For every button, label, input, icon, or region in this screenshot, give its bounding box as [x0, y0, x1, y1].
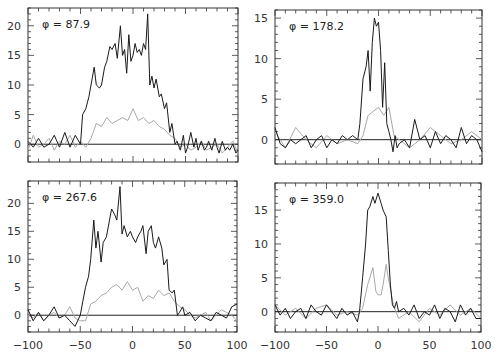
y-tick-label: 5	[261, 93, 268, 106]
chart-panel-bottom-left: 05101520−100−50050100φ = 267.6	[7, 181, 248, 352]
y-tick-label: 15	[254, 204, 268, 217]
series-light-line	[275, 107, 482, 148]
x-tick-label: 50	[178, 339, 192, 352]
series-dark-line	[275, 193, 481, 322]
series-dark-line	[28, 187, 237, 327]
x-tick-label: 50	[423, 339, 437, 352]
phi-annotation: φ = 87.9	[42, 18, 90, 31]
chart-figure: 05101520φ = 87.9051015φ = 178.205101520−…	[0, 0, 495, 359]
y-tick-label: 15	[7, 49, 21, 62]
y-tick-label: 0	[261, 306, 268, 319]
x-tick-label: −50	[69, 339, 92, 352]
y-tick-label: 5	[14, 109, 21, 122]
y-tick-label: 10	[7, 79, 21, 92]
x-tick-label: 100	[471, 339, 492, 352]
y-tick-label: 5	[14, 281, 21, 294]
y-tick-label: 0	[14, 309, 21, 322]
y-tick-label: 20	[7, 197, 21, 210]
series-dark-line	[28, 14, 238, 153]
chart-panel-top-left: 05101520φ = 87.9	[7, 8, 238, 162]
phi-annotation: φ = 178.2	[289, 20, 344, 33]
y-tick-label: 15	[254, 12, 268, 25]
x-tick-label: −100	[13, 339, 43, 352]
chart-panel-top-right: 051015φ = 178.2	[254, 10, 482, 164]
y-tick-label: 5	[261, 272, 268, 285]
x-tick-label: 0	[375, 339, 382, 352]
x-tick-label: 0	[129, 339, 136, 352]
y-tick-label: 10	[7, 253, 21, 266]
plot-frame	[275, 10, 482, 164]
x-tick-label: 100	[227, 339, 248, 352]
plot-frame	[28, 8, 238, 162]
series-dark-line	[275, 18, 482, 152]
chart-panel-bottom-right: 051015−100−50050100φ = 359.0	[254, 183, 492, 352]
series-light-line	[275, 264, 481, 322]
y-tick-label: 10	[254, 238, 268, 251]
y-tick-label: 10	[254, 53, 268, 66]
phi-annotation: φ = 359.0	[289, 193, 344, 206]
y-tick-label: 15	[7, 225, 21, 238]
x-tick-label: −50	[315, 339, 338, 352]
x-tick-label: −100	[260, 339, 290, 352]
phi-annotation: φ = 267.6	[42, 191, 97, 204]
y-tick-label: 20	[7, 20, 21, 33]
y-tick-label: 0	[261, 134, 268, 147]
y-tick-label: 0	[14, 138, 21, 151]
